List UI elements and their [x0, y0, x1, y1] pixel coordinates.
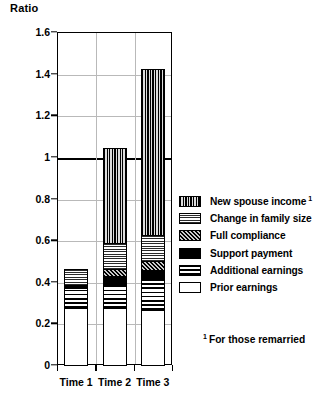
x-axis-label: Time 2	[98, 376, 131, 388]
stacked-bar-chart: Ratio 00.20.40.60.811.21.41.6 Time 1Time…	[0, 0, 328, 403]
bar-segment-prior-earnings	[64, 308, 88, 366]
bar-time-1	[64, 269, 88, 365]
bar-segment-change-in-family-size	[141, 235, 165, 262]
y-axis-tick-label: 1.2	[35, 109, 50, 121]
legend-swatch	[179, 196, 201, 207]
bar-segment-prior-earnings	[103, 308, 127, 366]
y-axis-tick-label: 1	[44, 151, 50, 163]
y-axis-tick-mark	[51, 323, 57, 324]
legend-swatch	[179, 265, 201, 276]
y-axis-tick-label: 0	[44, 359, 50, 371]
bar-time-3	[141, 69, 165, 365]
bar-segment-prior-earnings	[141, 310, 165, 366]
footnote-marker: 1	[203, 333, 207, 340]
bar-segment-new-spouse-income	[103, 148, 127, 244]
y-axis-tick-label: 0.6	[35, 234, 50, 246]
y-axis-tick-mark	[51, 239, 57, 240]
bar-segment-change-in-family-size	[64, 269, 88, 286]
y-axis-tick-mark	[51, 198, 57, 199]
bar-segment-additional-earnings	[64, 288, 88, 309]
y-axis-tick-mark	[51, 281, 57, 282]
category-divider	[135, 33, 136, 364]
legend-item: Additional earnings	[179, 262, 325, 279]
legend-superscript: 1	[308, 195, 312, 202]
legend-label: Prior earnings	[210, 282, 278, 293]
legend-swatch	[179, 248, 201, 259]
legend-item: Prior earnings	[179, 279, 325, 296]
x-axis-tick-mark	[57, 365, 58, 371]
legend-swatch	[179, 230, 201, 241]
x-axis-tick-mark	[172, 365, 173, 371]
y-axis-tick-mark	[51, 31, 57, 32]
x-axis-tick-mark	[95, 365, 96, 371]
y-axis-title: Ratio	[10, 2, 39, 14]
legend-swatch	[179, 213, 201, 224]
y-axis-tick-label: 1.6	[35, 26, 50, 38]
y-axis-tick-label: 0.4	[35, 276, 50, 288]
y-axis-tick-mark	[51, 156, 57, 157]
legend-label: Change in family size	[210, 213, 312, 224]
legend: New spouse income1Change in family sizeF…	[179, 193, 325, 296]
legend-label: New spouse income1	[210, 195, 312, 207]
x-axis-tick-mark	[134, 365, 135, 371]
bar-segment-additional-earnings	[141, 280, 165, 311]
legend-label: Support payment	[210, 248, 292, 259]
bar-time-2	[103, 148, 127, 365]
y-axis-tick-label: 1.4	[35, 68, 50, 80]
bar-segment-change-in-family-size	[103, 243, 127, 270]
footnote: 1For those remarried	[203, 333, 305, 345]
legend-item: Support payment	[179, 245, 325, 262]
y-axis-tick-label: 0.2	[35, 317, 50, 329]
legend-item: New spouse income1	[179, 193, 325, 210]
legend-label: Full compliance	[210, 230, 286, 241]
bar-segment-additional-earnings	[103, 286, 127, 309]
legend-item: Change in family size	[179, 210, 325, 227]
y-axis-tick-mark	[51, 73, 57, 74]
legend-swatch	[179, 282, 201, 293]
bar-segment-new-spouse-income	[141, 69, 165, 236]
x-axis-label: Time 3	[136, 376, 169, 388]
x-axis-label: Time 1	[60, 376, 93, 388]
legend-label: Additional earnings	[210, 265, 303, 276]
y-axis-tick-label: 0.8	[35, 193, 50, 205]
y-axis-tick-mark	[51, 115, 57, 116]
category-divider	[96, 33, 97, 364]
footnote-text: For those remarried	[209, 334, 305, 345]
legend-item: Full compliance	[179, 227, 325, 244]
